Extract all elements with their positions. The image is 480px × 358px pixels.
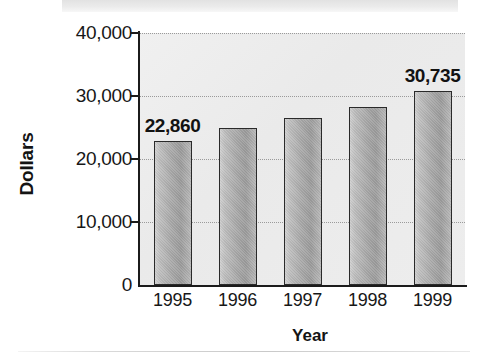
y-axis-tick-labels: 010,00020,00030,00040,000 [28,0,132,358]
bar-value-label: 30,735 [405,65,461,87]
y-axis-tick-label: 0 [28,274,132,296]
y-axis-tick-mark [130,32,140,34]
gridline [140,33,465,34]
x-axis-tick-label: 1998 [348,290,387,311]
x-axis-tick-label: 1996 [218,290,257,311]
bar [284,118,322,285]
x-axis-tick-label: 1997 [283,290,322,311]
bar [414,91,452,285]
y-axis-tick-label: 10,000 [28,211,132,233]
y-axis-tick-mark [130,158,140,160]
y-axis-tick-label: 30,000 [28,85,132,107]
y-axis-tick-label: 40,000 [28,22,132,44]
y-axis-tick-mark [130,221,140,223]
bar [154,141,192,285]
bar-value-label: 22,860 [145,115,201,137]
x-axis-tick-label: 1995 [153,290,192,311]
y-axis-tick-mark [130,95,140,97]
x-axis-line [138,285,467,287]
y-axis-tick-label: 20,000 [28,148,132,170]
bar [219,128,257,285]
x-axis-title: Year [140,326,480,346]
chart-figure: Dollars 010,00020,00030,00040,000 199519… [0,0,480,358]
x-axis-tick-label: 1999 [413,290,452,311]
bar [349,107,387,285]
